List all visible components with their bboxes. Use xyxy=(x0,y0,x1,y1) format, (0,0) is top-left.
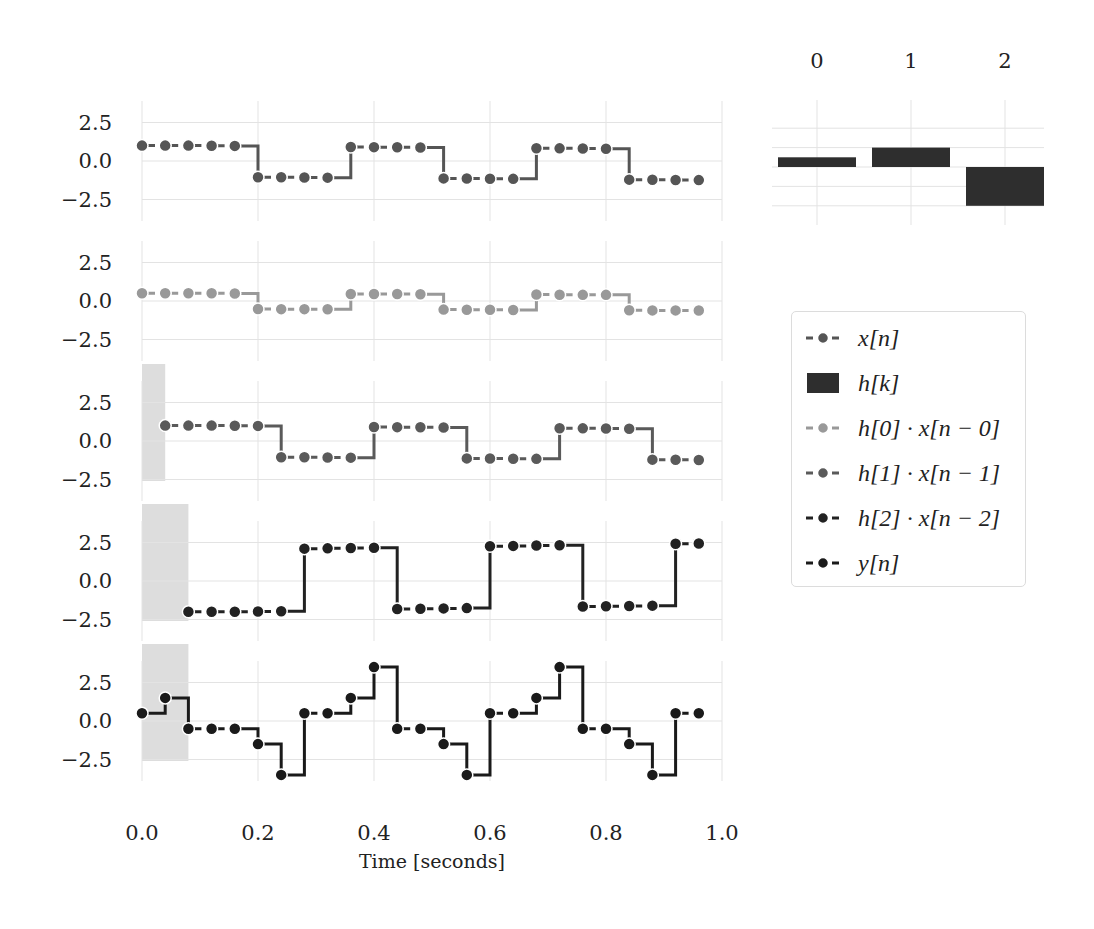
y-tick: 2.5 xyxy=(79,671,112,695)
y-tick: −2.5 xyxy=(61,188,112,212)
data-point xyxy=(646,600,658,612)
data-point xyxy=(182,287,194,299)
data-point xyxy=(368,141,380,153)
data-point xyxy=(484,453,496,465)
data-point xyxy=(600,723,612,735)
data-point xyxy=(322,542,334,554)
data-point xyxy=(530,453,542,465)
data-point xyxy=(646,174,658,186)
data-point xyxy=(275,451,287,463)
dot-line-icon xyxy=(804,418,842,438)
impulse-response-bar-chart: 0 1 2 xyxy=(772,49,1044,225)
data-point xyxy=(414,723,426,735)
data-point xyxy=(623,304,635,316)
y-tick: 0.0 xyxy=(79,569,112,593)
data-point xyxy=(507,453,519,465)
data-point xyxy=(623,600,635,612)
bar-h-0 xyxy=(778,157,856,167)
data-point xyxy=(159,420,171,432)
data-point xyxy=(345,692,357,704)
bar-tick-2: 2 xyxy=(998,49,1011,73)
bar-tick-1: 1 xyxy=(904,49,917,73)
bar-tick-0: 0 xyxy=(810,49,823,73)
y-tick: 0.0 xyxy=(79,149,112,173)
data-point xyxy=(345,288,357,300)
data-point xyxy=(646,304,658,316)
data-point xyxy=(275,605,287,617)
data-point xyxy=(693,537,705,549)
bar-h-1 xyxy=(872,148,950,167)
data-point xyxy=(414,421,426,433)
data-point xyxy=(693,305,705,317)
data-point xyxy=(693,454,705,466)
data-point xyxy=(182,140,194,152)
dot-line-icon xyxy=(804,508,842,528)
data-point xyxy=(554,142,566,154)
data-point xyxy=(322,707,334,719)
data-point xyxy=(206,287,218,299)
data-point xyxy=(646,769,658,781)
x-tick-2: 0.4 xyxy=(357,821,390,845)
y-tick: 2.5 xyxy=(79,531,112,555)
data-point xyxy=(646,454,658,466)
data-point xyxy=(461,452,473,464)
data-point xyxy=(600,600,612,612)
legend-label: h[1] · x[n − 1] xyxy=(858,460,1000,487)
data-point xyxy=(298,171,310,183)
data-point xyxy=(252,420,264,432)
legend-item-h2x: h[2] · x[n − 2] xyxy=(804,498,1000,538)
data-point xyxy=(298,543,310,555)
data-point xyxy=(298,303,310,315)
y-tick: −2.5 xyxy=(61,468,112,492)
data-point xyxy=(206,140,218,152)
panel-h2_x: 2.50.0−2.5 xyxy=(61,504,722,641)
x-tick-4: 0.8 xyxy=(589,821,622,845)
data-point xyxy=(670,454,682,466)
x-axis: 0.0 0.2 0.4 0.6 0.8 1.0 Time [seconds] xyxy=(125,821,738,872)
panel-h0_x: 2.50.0−2.5 xyxy=(61,241,722,361)
y-tick: −2.5 xyxy=(61,328,112,352)
y-tick: −2.5 xyxy=(61,748,112,772)
data-point xyxy=(461,602,473,614)
data-point xyxy=(530,289,542,301)
data-point xyxy=(693,174,705,186)
dot-line-icon xyxy=(804,463,842,483)
data-point xyxy=(391,603,403,615)
data-point xyxy=(438,602,450,614)
y-tick: 0.0 xyxy=(79,709,112,733)
data-point xyxy=(345,542,357,554)
data-point xyxy=(670,174,682,186)
data-point xyxy=(577,723,589,735)
data-point xyxy=(414,288,426,300)
data-point xyxy=(577,143,589,155)
data-point xyxy=(530,142,542,154)
bar-h-2 xyxy=(966,167,1044,206)
data-point xyxy=(507,304,519,316)
legend-label: y[n] xyxy=(858,550,899,577)
data-point xyxy=(252,738,264,750)
data-point xyxy=(484,173,496,185)
data-point xyxy=(322,451,334,463)
data-point xyxy=(136,707,148,719)
data-point xyxy=(252,303,264,315)
data-point xyxy=(229,723,241,735)
data-point xyxy=(600,143,612,155)
y-tick: 2.5 xyxy=(79,251,112,275)
data-point xyxy=(298,707,310,719)
data-point xyxy=(136,140,148,152)
y-tick: 2.5 xyxy=(79,111,112,135)
data-point xyxy=(670,707,682,719)
data-point xyxy=(229,606,241,618)
data-point xyxy=(438,172,450,184)
x-axis-title: Time [seconds] xyxy=(359,850,505,872)
legend-label: x[n] xyxy=(858,325,899,352)
data-point xyxy=(159,140,171,152)
data-point xyxy=(577,601,589,613)
filled-square-icon xyxy=(804,373,842,393)
data-point xyxy=(159,287,171,299)
data-point xyxy=(275,303,287,315)
data-point xyxy=(345,452,357,464)
x-tick-3: 0.6 xyxy=(473,821,506,845)
x-tick-1: 0.2 xyxy=(241,821,274,845)
dot-line-icon xyxy=(804,328,842,348)
